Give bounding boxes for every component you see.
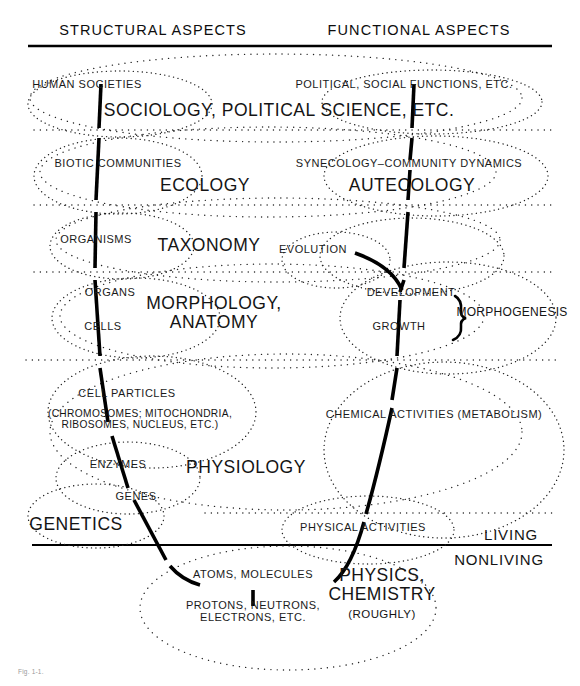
component-evolution: EVOLUTION <box>279 244 347 256</box>
discipline-physics-chemistry-roughly: (ROUGHLY) <box>348 608 415 620</box>
component-development: DEVELOPMENT <box>367 287 456 299</box>
component-cell-particles: CELL PARTICLES <box>78 388 175 400</box>
component-subatomic-particles: PROTONS, NEUTRONS, ELECTRONS, ETC. <box>186 600 320 624</box>
component-growth: GROWTH <box>372 321 425 333</box>
component-synecology: SYNECOLOGY–COMMUNITY DYNAMICS <box>296 158 522 170</box>
component-human-societies: HUMAN SOCIETIES <box>32 79 142 91</box>
component-physical-activities: PHYSICAL ACTIVITIES <box>300 522 426 534</box>
component-political-social-functions: POLITICAL, SOCIAL FUNCTIONS, ETC. <box>295 79 512 91</box>
discipline-sociology: SOCIOLOGY, POLITICAL SCIENCE, ETC. <box>104 101 455 120</box>
component-enzymes: ENZYMES <box>90 459 147 471</box>
component-morphogenesis: MORPHOGENESIS <box>456 306 567 319</box>
discipline-taxonomy: TAXONOMY <box>158 236 261 255</box>
label-nonliving: NONLIVING <box>454 552 544 568</box>
component-organs: ORGANS <box>85 287 136 299</box>
biology-levels-diagram: .dot { fill: none; stroke: #222222; stro… <box>0 0 580 686</box>
label-living: LIVING <box>484 527 538 543</box>
component-genes: GENES <box>115 491 156 503</box>
component-chemical-activities: CHEMICAL ACTIVITIES (METABOLISM) <box>326 409 542 421</box>
component-cell-particles-detail: (CHROMOSOMES; MITOCHONDRIA, RIBOSOMES, N… <box>48 408 232 430</box>
component-atoms-molecules: ATOMS, MOLECULES <box>193 569 313 581</box>
discipline-genetics: GENETICS <box>29 515 122 534</box>
component-biotic-communities: BIOTIC COMMUNITIES <box>55 158 182 170</box>
discipline-autecology: AUTECOLOGY <box>349 176 476 195</box>
figure-caption: Fig. 1-1. <box>18 668 44 675</box>
discipline-ecology: ECOLOGY <box>160 176 250 195</box>
discipline-physics-chemistry: PHYSICS, CHEMISTRY <box>328 566 435 604</box>
header-functional: FUNCTIONAL ASPECTS <box>328 23 511 39</box>
component-organisms: ORGANISMS <box>60 234 132 246</box>
header-structural: STRUCTURAL ASPECTS <box>59 23 247 39</box>
discipline-physiology: PHYSIOLOGY <box>186 458 306 477</box>
component-cells: CELLS <box>84 321 121 333</box>
discipline-morphology-anatomy: MORPHOLOGY, ANATOMY <box>146 294 282 332</box>
